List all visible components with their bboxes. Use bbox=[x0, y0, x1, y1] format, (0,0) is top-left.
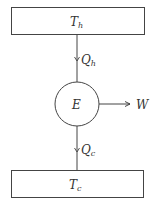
heat-out-arrow: Qc bbox=[75, 126, 96, 170]
svg-text:Tc: Tc bbox=[69, 178, 82, 193]
svg-text:Th: Th bbox=[70, 15, 83, 30]
svg-text:E: E bbox=[71, 98, 81, 112]
svg-text:Qh: Qh bbox=[81, 53, 96, 68]
svg-text:W: W bbox=[136, 98, 150, 112]
hot-reservoir-box: Th bbox=[12, 8, 145, 35]
work-arrow: W bbox=[99, 98, 150, 112]
heat-engine-diagram: Th Qh E W Qc Tc bbox=[0, 0, 160, 207]
heat-in-arrow: Qh bbox=[75, 35, 97, 83]
engine-circle: E bbox=[55, 82, 99, 126]
cold-reservoir-box: Tc bbox=[12, 171, 144, 198]
svg-text:Qc: Qc bbox=[81, 143, 96, 158]
